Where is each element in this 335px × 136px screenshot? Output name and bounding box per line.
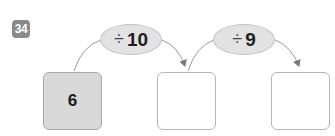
cut-off-instruction-text: ㅡㅡㅡㅡㅡㅡ ㅡㅡㅡㅡ ㅡㅡ ㅡㅡ bbox=[14, 0, 196, 8]
divide-sign-icon: ÷ bbox=[114, 29, 124, 50]
operation-divide-10: ÷ 10 bbox=[100, 24, 162, 55]
answer-box-2[interactable] bbox=[271, 72, 330, 130]
operation-divide-9: ÷ 9 bbox=[213, 24, 275, 55]
arrow-1 bbox=[162, 40, 185, 66]
problem-number-badge: 34 bbox=[12, 20, 30, 38]
connector-line-1 bbox=[74, 40, 101, 71]
answer-box-1[interactable] bbox=[157, 72, 216, 130]
operation-value: 9 bbox=[245, 29, 256, 51]
divide-sign-icon: ÷ bbox=[232, 29, 242, 50]
arrow-2 bbox=[275, 40, 299, 66]
start-value-box: 6 bbox=[43, 72, 102, 130]
connector-line-2 bbox=[188, 40, 214, 71]
operation-value: 10 bbox=[127, 29, 148, 51]
